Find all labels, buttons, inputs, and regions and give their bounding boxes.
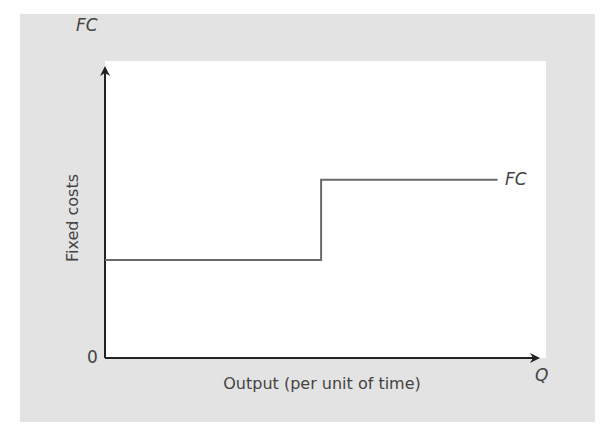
fc-step-line: [105, 180, 498, 260]
fc-series-label: FC: [505, 171, 527, 188]
x-axis-title: Output (per unit of time): [223, 374, 421, 393]
y-axis-symbol: FC: [76, 17, 98, 34]
origin-label: 0: [87, 349, 98, 366]
y-axis-title: Fixed costs: [63, 174, 82, 262]
x-axis-symbol: Q: [535, 367, 548, 384]
